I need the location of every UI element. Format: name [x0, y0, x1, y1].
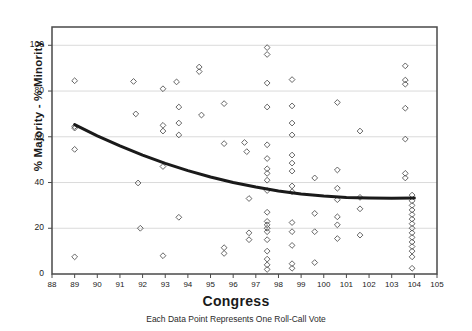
y-axis-tick-label: 0 — [18, 268, 44, 278]
x-axis-tick-label: 93 — [153, 280, 177, 289]
data-point — [289, 77, 295, 83]
data-point — [402, 105, 408, 111]
data-point — [133, 111, 139, 117]
data-point — [242, 140, 248, 146]
data-point — [334, 100, 340, 106]
data-point — [246, 230, 252, 236]
data-point — [334, 214, 340, 220]
data-point — [402, 77, 408, 83]
x-axis-tick-label: 103 — [380, 280, 404, 289]
data-point — [334, 236, 340, 242]
data-point — [289, 160, 295, 166]
data-point — [160, 122, 166, 128]
data-point — [199, 112, 205, 118]
data-point — [334, 185, 340, 191]
x-axis-tick-label: 89 — [63, 280, 87, 289]
data-point — [160, 128, 166, 134]
data-point — [289, 152, 295, 158]
data-point — [357, 206, 363, 212]
data-point — [264, 104, 270, 110]
data-point — [312, 175, 318, 181]
chart-caption: Each Data Point Represents One Roll-Call… — [0, 314, 472, 324]
x-axis-tick-label: 99 — [289, 280, 313, 289]
x-axis-tick-label: 104 — [402, 280, 426, 289]
data-point — [246, 196, 252, 202]
x-axis-title: Congress — [0, 293, 472, 309]
data-point-group — [72, 45, 415, 273]
data-point — [312, 210, 318, 216]
y-axis-tick-label: 60 — [18, 131, 44, 141]
x-axis-tick-label: 96 — [221, 280, 245, 289]
data-point — [174, 79, 180, 85]
data-point — [289, 120, 295, 126]
y-axis-tick-label: 100 — [18, 39, 44, 49]
x-axis-tick-label: 88 — [40, 280, 64, 289]
x-axis-tick-label: 95 — [199, 280, 223, 289]
data-point — [176, 104, 182, 110]
data-point — [176, 120, 182, 126]
x-axis-tick-label: 91 — [108, 280, 132, 289]
data-point — [221, 141, 227, 147]
x-axis-tick-label: 102 — [357, 280, 381, 289]
data-point — [402, 81, 408, 87]
x-axis-tick-label: 92 — [131, 280, 155, 289]
data-point — [246, 237, 252, 243]
trend-line — [75, 125, 415, 199]
data-point — [221, 101, 227, 107]
data-point — [357, 128, 363, 134]
x-axis-tick-label: 105 — [425, 280, 449, 289]
data-point — [402, 63, 408, 69]
data-point — [264, 237, 270, 243]
data-point — [312, 229, 318, 235]
data-point — [289, 168, 295, 174]
data-point — [334, 222, 340, 228]
data-point — [160, 253, 166, 259]
x-axis-tick-label: 100 — [312, 280, 336, 289]
x-axis-tick-label: 90 — [85, 280, 109, 289]
data-point — [289, 229, 295, 235]
y-axis-tick-label: 40 — [18, 177, 44, 187]
data-point — [264, 209, 270, 215]
data-point — [264, 248, 270, 254]
data-point — [409, 265, 415, 271]
data-point — [289, 220, 295, 226]
data-point — [334, 167, 340, 173]
y-axis-tick-label: 80 — [18, 85, 44, 95]
data-point — [176, 214, 182, 220]
data-point — [131, 79, 137, 85]
data-point — [72, 146, 78, 152]
data-point — [221, 245, 227, 251]
data-point — [244, 149, 250, 155]
data-point — [289, 103, 295, 109]
scatter-chart: % Majority - % Minority 020406080100 888… — [0, 0, 472, 331]
data-point — [264, 142, 270, 148]
data-point — [264, 256, 270, 262]
data-point — [264, 156, 270, 162]
data-point — [135, 180, 141, 186]
data-point — [289, 243, 295, 249]
data-point — [72, 254, 78, 260]
data-point — [221, 251, 227, 257]
data-point — [409, 254, 415, 260]
x-axis-tick-label: 98 — [266, 280, 290, 289]
y-axis-tick-label: 20 — [18, 222, 44, 232]
data-point — [357, 232, 363, 238]
data-point — [289, 183, 295, 189]
data-point — [312, 260, 318, 266]
x-axis-tick-label: 94 — [176, 280, 200, 289]
data-point — [264, 52, 270, 58]
x-axis-tick-label: 101 — [334, 280, 358, 289]
x-axis-tick-label: 97 — [244, 280, 268, 289]
data-point — [264, 80, 270, 86]
data-point — [72, 78, 78, 84]
